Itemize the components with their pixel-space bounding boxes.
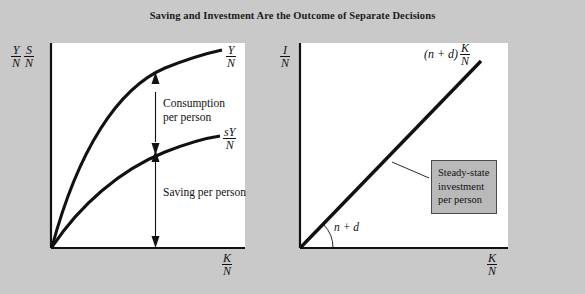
right-plot-area <box>300 43 508 248</box>
fraction-numerator: S <box>24 44 34 57</box>
angle-label: n + d <box>334 221 359 233</box>
figure-container: Saving and Investment Are the Outcome of… <box>0 0 585 294</box>
right-y-axis-label: I N <box>280 44 290 69</box>
consumption-per-person-annotation: Consumption per person <box>163 96 225 124</box>
callout-line: per person <box>438 193 490 207</box>
left-x-axis-label: K N <box>222 252 232 277</box>
fraction-numerator: sY <box>223 126 236 139</box>
fraction-numerator: Y <box>226 44 236 57</box>
left-y-axis-label: Y N S N <box>11 44 37 69</box>
fraction-denominator: N <box>223 139 236 151</box>
y-over-n-fraction: Y N <box>11 44 21 69</box>
fraction-denominator: N <box>11 57 21 69</box>
fraction-numerator: K <box>222 252 232 265</box>
sy-over-n-fraction: sY N <box>223 126 236 151</box>
k-over-n-fraction: K N <box>487 252 497 277</box>
steady-state-investment-callout: Steady-state investment per person <box>431 160 497 214</box>
fraction-numerator: K <box>487 252 497 265</box>
saving-per-person-curve-label: sY N <box>223 126 236 151</box>
fraction-numerator: I <box>280 44 290 57</box>
callout-line: investment <box>438 180 490 194</box>
s-over-n-fraction: S N <box>24 44 34 69</box>
fraction-denominator: N <box>226 57 236 69</box>
k-over-n-fraction: K N <box>460 42 470 67</box>
y-over-n-fraction: Y N <box>226 44 236 69</box>
fraction-denominator: N <box>460 55 470 67</box>
fraction-denominator: N <box>487 265 497 277</box>
left-plot-area <box>51 43 245 248</box>
callout-line: Steady-state <box>438 166 490 180</box>
line-label-prefix: (n + d) <box>424 47 458 61</box>
saving-per-person-annotation: Saving per person <box>163 185 246 199</box>
k-over-n-fraction: K N <box>222 252 232 277</box>
right-x-axis-label: K N <box>487 252 497 277</box>
i-over-n-fraction: I N <box>280 44 290 69</box>
figure-title: Saving and Investment Are the Outcome of… <box>0 10 585 21</box>
output-per-person-curve-label: Y N <box>226 44 236 69</box>
fraction-numerator: Y <box>11 44 21 57</box>
fraction-denominator: N <box>280 57 290 69</box>
fraction-denominator: N <box>222 265 232 277</box>
annotation-line: per person <box>163 110 225 124</box>
fraction-numerator: K <box>460 42 470 55</box>
annotation-line: Consumption <box>163 96 225 110</box>
fraction-denominator: N <box>24 57 34 69</box>
required-investment-line-label: (n + d) K N <box>424 42 470 67</box>
